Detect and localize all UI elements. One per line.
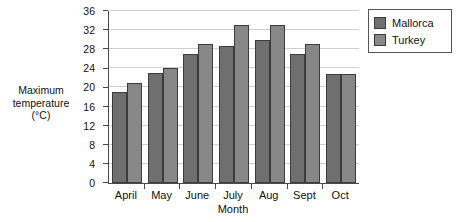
bar [183, 54, 198, 183]
x-axis-title: Month [108, 203, 358, 215]
bar [270, 25, 285, 183]
y-tick-label: 12 [69, 121, 95, 132]
bar [112, 92, 127, 183]
bar [341, 74, 356, 183]
bar [255, 40, 270, 183]
legend-rows: MallorcaTurkey [374, 14, 447, 48]
x-category-label-oct: Oct [313, 189, 367, 201]
bar [305, 44, 320, 183]
bar-group [255, 11, 285, 183]
y-tick-label: 32 [69, 25, 95, 36]
legend-item-mallorca[interactable]: Mallorca [374, 14, 447, 31]
bar-group [326, 11, 356, 183]
bar [127, 83, 142, 183]
bar-group [290, 11, 320, 183]
bar-chart: Maximum temperature (°C) 048121620242832… [0, 0, 456, 222]
legend-label: Turkey [392, 34, 425, 46]
bar-group [219, 11, 249, 183]
bar [234, 25, 249, 183]
bar [326, 74, 341, 183]
bar [163, 68, 178, 183]
bar [198, 44, 213, 183]
y-tick-label: 36 [69, 6, 95, 17]
bar [290, 54, 305, 183]
y-tick-label: 24 [69, 63, 95, 74]
y-tick-label: 20 [69, 82, 95, 93]
bar-group [148, 11, 178, 183]
bar [219, 46, 234, 183]
legend: MallorcaTurkey [368, 9, 452, 53]
y-tick-label: 0 [69, 178, 95, 189]
bar-group [112, 11, 142, 183]
legend-swatch-icon [374, 34, 386, 46]
y-tick-label: 4 [69, 159, 95, 170]
plot-area [108, 11, 359, 184]
legend-swatch-icon [374, 17, 386, 29]
bar-group [183, 11, 213, 183]
y-tick-label: 8 [69, 140, 95, 151]
y-tick-label: 28 [69, 44, 95, 55]
legend-label: Mallorca [392, 17, 434, 29]
y-tick-label: 16 [69, 102, 95, 113]
bar [148, 73, 163, 183]
legend-item-turkey[interactable]: Turkey [374, 31, 447, 48]
